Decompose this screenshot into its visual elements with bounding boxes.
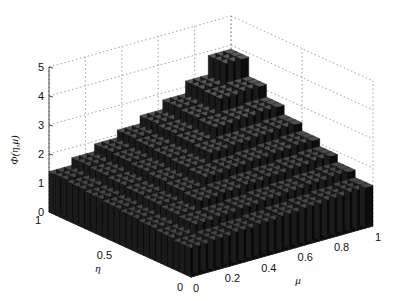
tick-label: 1 <box>38 177 44 189</box>
surface-plot-figure: 01234500.5100.20.40.60.81 Φ(η,μ) η μ <box>0 0 394 301</box>
tick-label: 0.2 <box>225 272 240 284</box>
tick-label: 0.4 <box>261 262 276 274</box>
tick-label: 0.6 <box>298 251 313 263</box>
tick-label: 1 <box>35 214 41 226</box>
tick-label: 0.8 <box>334 241 349 253</box>
mu-axis-label: μ <box>294 274 301 286</box>
tick-label: 0 <box>193 282 199 294</box>
tick-label: 0.5 <box>97 249 112 261</box>
tick-label: 3 <box>38 119 44 131</box>
z-axis-label: Φ(η,μ) <box>8 135 21 165</box>
surface <box>49 49 373 277</box>
tick-label: 1 <box>375 231 381 243</box>
tick-label: 0 <box>177 281 183 293</box>
tick-label: 5 <box>38 61 44 73</box>
tick-label: 2 <box>38 148 44 160</box>
tick-label: 4 <box>38 90 44 102</box>
eta-axis-label: η <box>95 262 100 274</box>
